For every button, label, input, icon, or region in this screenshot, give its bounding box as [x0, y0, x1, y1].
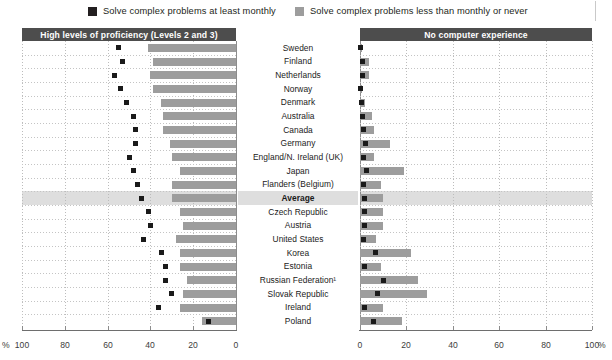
- marker-no-computer: [361, 127, 366, 132]
- bar-proficiency: [183, 222, 237, 230]
- country-label-row: Austria: [238, 219, 358, 233]
- gridline-20: [406, 41, 407, 328]
- row-separator: [22, 273, 236, 274]
- country-label: Russian Federation¹: [260, 275, 336, 285]
- panel-header-right-label: No computer experience: [424, 30, 528, 40]
- country-label-row: Estonia: [238, 260, 358, 274]
- country-label-row: Russian Federation¹: [238, 273, 358, 287]
- row-separator: [22, 287, 236, 288]
- row-separator: [360, 246, 592, 247]
- axis-tick: [360, 326, 361, 330]
- row-separator: [22, 109, 236, 110]
- row-separator: [360, 55, 592, 56]
- axis-tick-label: 80: [60, 340, 70, 350]
- marker-no-computer: [362, 264, 367, 269]
- axis-tick-labels: 100806040200020406080100%%: [0, 340, 612, 354]
- axis-tick: [406, 326, 407, 330]
- chart-legend: Solve complex problems at least monthly …: [0, 0, 612, 22]
- row-separator: [360, 301, 592, 302]
- country-label-row: Average: [238, 191, 358, 205]
- country-label-row: Norway: [238, 82, 358, 96]
- bar-proficiency: [153, 58, 236, 66]
- marker-no-computer: [360, 59, 365, 64]
- row-separator: [22, 137, 236, 138]
- row-separator: [360, 82, 592, 83]
- bar-proficiency: [183, 290, 237, 298]
- axis-tick-label: 0: [234, 340, 239, 350]
- row-separator: [22, 191, 236, 192]
- axis-tick-label: 20: [401, 340, 411, 350]
- marker-no-computer: [360, 73, 365, 78]
- legend-item-solve-monthly: Solve complex problems at least monthly: [88, 0, 276, 22]
- bar-proficiency: [150, 71, 236, 79]
- country-label: Poland: [285, 316, 311, 326]
- legend-label-1: Solve complex problems less than monthly…: [310, 6, 528, 16]
- gridline-80: [65, 41, 66, 328]
- country-label-row: Denmark: [238, 96, 358, 110]
- marker-proficiency: [148, 223, 153, 228]
- row-separator: [22, 82, 236, 83]
- bar-proficiency: [163, 126, 236, 134]
- axis-tick: [592, 326, 593, 330]
- axis-tick-label: 60: [103, 340, 113, 350]
- marker-proficiency: [133, 141, 138, 146]
- marker-no-computer: [360, 114, 365, 119]
- axis-tick-label: 100: [15, 340, 29, 350]
- bar-no-computer: [360, 317, 402, 325]
- country-label: Netherlands: [275, 70, 321, 80]
- panel-header-left: High levels of proficiency (Levels 2 and…: [22, 28, 236, 41]
- row-separator: [360, 219, 592, 220]
- country-label: Estonia: [284, 261, 312, 271]
- marker-proficiency: [139, 196, 144, 201]
- row-separator: [360, 191, 592, 192]
- axis-tick-label: 40: [448, 340, 458, 350]
- row-separator: [360, 178, 592, 179]
- axis-tick-label: 40: [145, 340, 155, 350]
- bar-proficiency: [180, 304, 236, 312]
- plot-area-right: [360, 41, 592, 328]
- row-separator: [22, 246, 236, 247]
- marker-proficiency: [127, 155, 132, 160]
- country-label: Canada: [283, 125, 313, 135]
- marker-no-computer: [362, 305, 367, 310]
- axis-baseline-left: [22, 330, 237, 331]
- axis-baseline-right: [359, 330, 592, 331]
- gridline-100: [592, 41, 593, 328]
- bar-proficiency: [180, 167, 236, 175]
- marker-no-computer: [358, 45, 363, 50]
- country-label: England/N. Ireland (UK): [253, 152, 343, 162]
- marker-no-computer: [361, 237, 366, 242]
- marker-proficiency: [163, 264, 168, 269]
- country-label-row: Sweden: [238, 41, 358, 55]
- marker-proficiency: [133, 127, 138, 132]
- marker-no-computer: [361, 155, 366, 160]
- row-separator: [360, 314, 592, 315]
- marker-proficiency: [156, 305, 161, 310]
- country-label-row: Czech Republic: [238, 205, 358, 219]
- marker-no-computer: [375, 291, 380, 296]
- row-separator: [360, 68, 592, 69]
- bar-proficiency: [172, 181, 236, 189]
- row-separator: [360, 123, 592, 124]
- row-separator: [360, 164, 592, 165]
- bar-proficiency: [180, 263, 236, 271]
- row-separator: [360, 232, 592, 233]
- marker-no-computer: [364, 168, 369, 173]
- country-label: Korea: [287, 248, 310, 258]
- panel-header-right: No computer experience: [360, 28, 592, 41]
- bar-proficiency: [153, 85, 236, 93]
- row-separator: [360, 96, 592, 97]
- axis-tick-label: 20: [188, 340, 198, 350]
- gridline-0: [236, 41, 237, 328]
- axis-tick: [193, 326, 194, 330]
- panel-header-left-label: High levels of proficiency (Levels 2 and…: [40, 30, 217, 40]
- row-separator: [22, 55, 236, 56]
- marker-proficiency: [159, 250, 164, 255]
- row-separator: [360, 205, 592, 206]
- country-label-row: Ireland: [238, 301, 358, 315]
- row-separator: [22, 301, 236, 302]
- row-separator: [22, 96, 236, 97]
- marker-proficiency: [112, 73, 117, 78]
- gridline-80: [546, 41, 547, 328]
- chart-root: Solve complex problems at least monthly …: [0, 0, 612, 360]
